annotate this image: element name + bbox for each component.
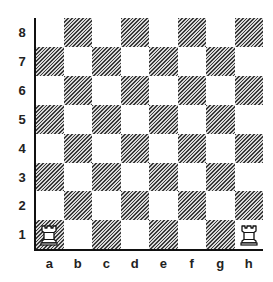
square-h5 [235, 105, 264, 134]
square-b8 [64, 18, 93, 47]
square-d1 [121, 220, 150, 249]
square-c6 [92, 76, 121, 105]
square-e7 [149, 47, 178, 76]
square-f1 [178, 220, 207, 249]
square-g8 [206, 18, 235, 47]
square-b5 [64, 105, 93, 134]
square-h4 [235, 134, 264, 163]
square-d3 [121, 163, 150, 192]
square-e5 [149, 105, 178, 134]
file-label-f: f [178, 256, 207, 271]
square-g3 [206, 163, 235, 192]
rank-label-8: 8 [15, 18, 29, 47]
square-g7 [206, 47, 235, 76]
square-a3 [35, 163, 64, 192]
square-e2 [149, 191, 178, 220]
square-b7 [64, 47, 93, 76]
square-b2 [64, 191, 93, 220]
square-f4 [178, 134, 207, 163]
square-c8 [92, 18, 121, 47]
square-e4 [149, 134, 178, 163]
rank-label-5: 5 [15, 105, 29, 134]
rank-label-6: 6 [15, 76, 29, 105]
square-f7 [178, 47, 207, 76]
square-e1 [149, 220, 178, 249]
square-h7 [235, 47, 264, 76]
square-h8 [235, 18, 264, 47]
square-f5 [178, 105, 207, 134]
square-h2 [235, 191, 264, 220]
file-label-h: h [235, 256, 264, 271]
square-d8 [121, 18, 150, 47]
square-d7 [121, 47, 150, 76]
square-a7 [35, 47, 64, 76]
square-c5 [92, 105, 121, 134]
square-b3 [64, 163, 93, 192]
square-e6 [149, 76, 178, 105]
square-b6 [64, 76, 93, 105]
square-f2 [178, 191, 207, 220]
rank-label-7: 7 [15, 47, 29, 76]
square-g5 [206, 105, 235, 134]
file-label-d: d [121, 256, 150, 271]
square-f3 [178, 163, 207, 192]
file-label-a: a [35, 256, 64, 271]
rank-label-3: 3 [15, 163, 29, 192]
square-h6 [235, 76, 264, 105]
square-g6 [206, 76, 235, 105]
square-a4 [35, 134, 64, 163]
file-label-b: b [64, 256, 93, 271]
square-g2 [206, 191, 235, 220]
white-rook-icon [35, 220, 64, 249]
white-rook-icon [235, 220, 264, 249]
rank-label-1: 1 [15, 220, 29, 249]
square-d6 [121, 76, 150, 105]
square-f6 [178, 76, 207, 105]
file-label-g: g [206, 256, 235, 271]
square-c7 [92, 47, 121, 76]
board-left-border [34, 18, 36, 250]
square-a2 [35, 191, 64, 220]
square-f8 [178, 18, 207, 47]
square-d4 [121, 134, 150, 163]
square-b1 [64, 220, 93, 249]
square-b4 [64, 134, 93, 163]
board-bottom-border [34, 249, 263, 251]
file-label-e: e [149, 256, 178, 271]
square-a5 [35, 105, 64, 134]
square-c3 [92, 163, 121, 192]
square-d5 [121, 105, 150, 134]
square-a8 [35, 18, 64, 47]
square-g4 [206, 134, 235, 163]
rank-label-4: 4 [15, 134, 29, 163]
square-c1 [92, 220, 121, 249]
square-e3 [149, 163, 178, 192]
square-c2 [92, 191, 121, 220]
square-a6 [35, 76, 64, 105]
rank-label-2: 2 [15, 191, 29, 220]
square-g1 [206, 220, 235, 249]
square-e8 [149, 18, 178, 47]
square-c4 [92, 134, 121, 163]
square-d2 [121, 191, 150, 220]
file-label-c: c [92, 256, 121, 271]
square-h3 [235, 163, 264, 192]
chess-board [35, 18, 263, 249]
